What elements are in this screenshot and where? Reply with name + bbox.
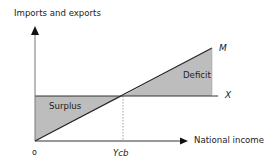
deficit-label: Deficit [183,71,211,80]
surplus-label: Surplus [49,102,81,111]
imports-line-label: M [219,44,227,53]
x-axis-label: National income [194,136,264,145]
origin-label: o [32,149,37,157]
exports-line-label: X [225,91,231,100]
y-axis-label: Imports and exports [14,9,101,18]
ycb-tick-label: Ycb [113,149,128,158]
imports-exports-diagram: Imports and exports National income Surp… [0,0,276,163]
y-axis-arrow-icon [31,26,39,35]
x-axis-arrow-icon [180,138,188,145]
